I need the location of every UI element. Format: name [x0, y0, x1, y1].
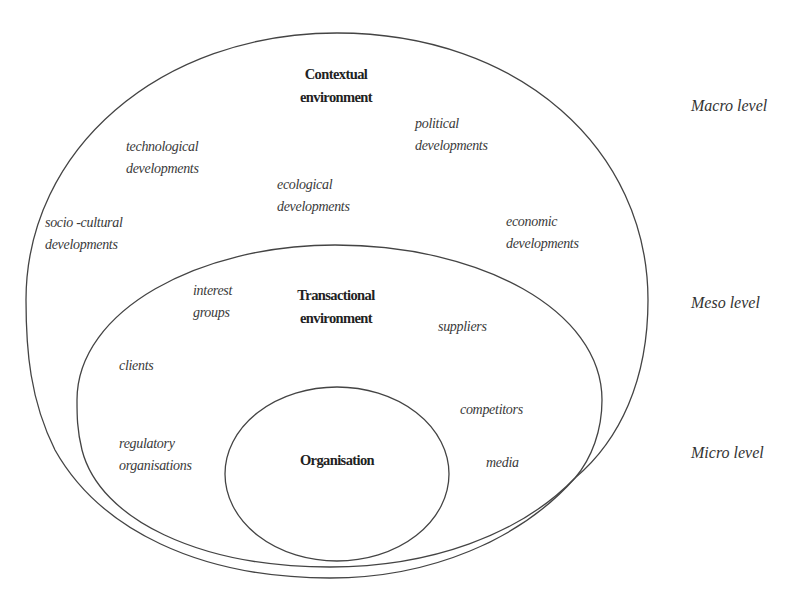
title-line: Transactional	[282, 284, 390, 307]
factor-political: political developments	[415, 113, 488, 157]
transactional-environment-title: Transactional environment	[282, 284, 390, 330]
organisation-boundary	[225, 387, 449, 561]
title-line: environment	[282, 307, 390, 330]
factor-line: technological	[126, 136, 199, 158]
factor-line: regulatory	[119, 433, 192, 455]
factor-competitors: competitors	[460, 399, 523, 421]
factor-line: economic	[506, 211, 579, 233]
factor-regulatory-organisations: regulatory organisations	[119, 433, 192, 477]
factor-ecological: ecological developments	[277, 174, 350, 218]
factor-line: clients	[119, 355, 153, 377]
level-meso: Meso level	[691, 292, 760, 314]
factor-media: media	[486, 452, 519, 474]
factor-line: developments	[415, 135, 488, 157]
title-line: Contextual	[286, 63, 386, 86]
factor-line: political	[415, 113, 488, 135]
environment-diagram: Contextual environment technological dev…	[0, 0, 803, 605]
factor-line: developments	[126, 158, 199, 180]
factor-line: competitors	[460, 399, 523, 421]
factor-line: ecological	[277, 174, 350, 196]
factor-line: groups	[193, 302, 232, 324]
factor-line: socio -cultural	[45, 212, 123, 234]
diagram-shapes	[0, 0, 803, 605]
factor-suppliers: suppliers	[438, 316, 487, 338]
factor-interest-groups: interest groups	[193, 280, 232, 324]
factor-line: media	[486, 452, 519, 474]
factor-line: developments	[506, 233, 579, 255]
factor-line: developments	[45, 234, 123, 256]
factor-line: developments	[277, 196, 350, 218]
factor-socio-cultural: socio -cultural developments	[45, 212, 123, 256]
organisation-title: Organisation	[283, 449, 391, 472]
title-line: environment	[286, 86, 386, 109]
title-line: Organisation	[283, 449, 391, 472]
factor-line: suppliers	[438, 316, 487, 338]
factor-line: interest	[193, 280, 232, 302]
factor-clients: clients	[119, 355, 153, 377]
level-micro: Micro level	[691, 442, 764, 464]
contextual-environment-title: Contextual environment	[286, 63, 386, 109]
factor-economic: economic developments	[506, 211, 579, 255]
level-macro: Macro level	[691, 95, 767, 117]
factor-technological: technological developments	[126, 136, 199, 180]
factor-line: organisations	[119, 455, 192, 477]
